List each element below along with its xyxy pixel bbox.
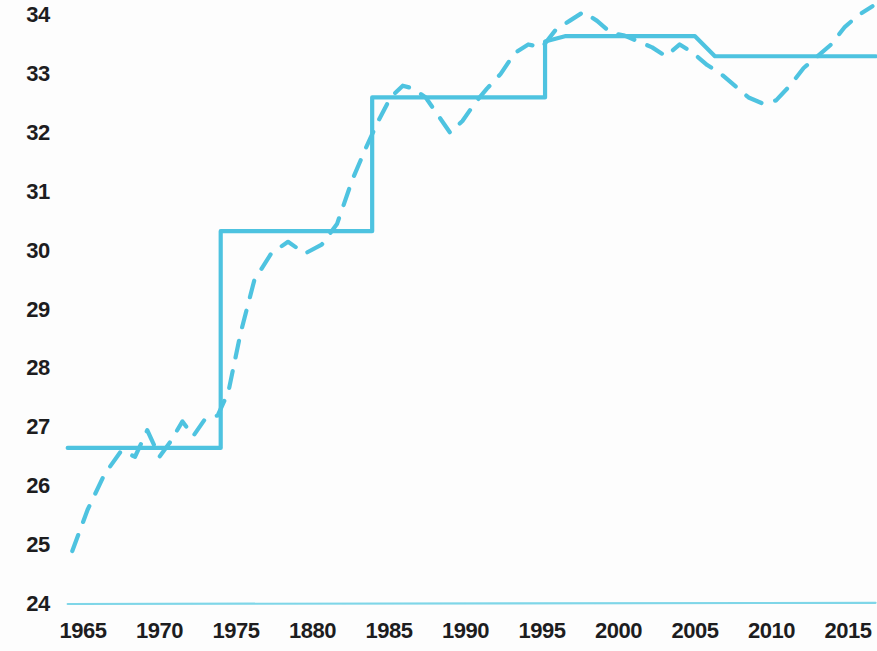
x-tick-label: 1970 xyxy=(120,620,200,642)
y-tick-label: 24 xyxy=(6,593,50,615)
y-tick-label: 34 xyxy=(6,4,50,26)
x-tick-label: 1975 xyxy=(196,620,276,642)
x-tick-label: 1990 xyxy=(426,620,506,642)
series-dashed-line xyxy=(72,6,872,551)
y-tick-label: 25 xyxy=(6,534,50,556)
x-tick-label: 1880 xyxy=(273,620,353,642)
dashed-line-path xyxy=(72,6,872,551)
chart-container: 3433323130292827262524 19651970197518801… xyxy=(0,0,877,651)
y-tick-label: 29 xyxy=(6,299,50,321)
x-tick-label: 1965 xyxy=(43,620,123,642)
y-tick-label: 33 xyxy=(6,63,50,85)
y-tick-label: 31 xyxy=(6,181,50,203)
y-tick-label: 27 xyxy=(6,416,50,438)
x-tick-label: 1995 xyxy=(502,620,582,642)
baseline-path xyxy=(68,603,876,604)
y-tick-label: 28 xyxy=(6,357,50,379)
x-tick-label: 2015 xyxy=(808,620,877,642)
x-tick-label: 2000 xyxy=(579,620,659,642)
x-tick-label: 2005 xyxy=(655,620,735,642)
y-tick-label: 26 xyxy=(6,475,50,497)
chart-plot-area xyxy=(0,0,877,651)
series-baseline xyxy=(68,603,876,604)
y-tick-label: 32 xyxy=(6,122,50,144)
x-tick-label: 2010 xyxy=(732,620,812,642)
x-tick-label: 1985 xyxy=(349,620,429,642)
y-tick-label: 30 xyxy=(6,240,50,262)
